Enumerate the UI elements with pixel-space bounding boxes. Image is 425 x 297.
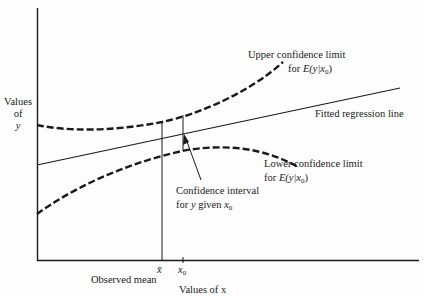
lower-for: for (264, 172, 279, 183)
y-label-line-2: of (3, 108, 33, 119)
diagram-canvas: Values of y Upper confidence limit for E… (0, 0, 425, 297)
lower-limit-label-line1: Lower confidence limit (264, 158, 363, 169)
observed-mean-label: Observed mean (91, 274, 157, 285)
lower-close: ) (305, 172, 309, 183)
lower-limit-label-line2: for E(y|x0) (264, 172, 308, 187)
upper-limit-label-line2: for E(y|x0) (288, 63, 332, 78)
x0-tick-label: x0 (178, 264, 186, 279)
fitted-line-label: Fitted regression line (315, 108, 404, 119)
y-label-line-3: y (3, 120, 33, 131)
y-axis-label: Values of y (3, 96, 33, 131)
ci-sub: 0 (229, 204, 233, 212)
lower-confidence-curve (37, 147, 298, 214)
upper-limit-label-line1: Upper confidence limit (248, 49, 345, 60)
upper-for: for (288, 63, 303, 74)
upper-confidence-curve (37, 62, 283, 130)
lower-expr: E(y|x (279, 172, 301, 183)
upper-close: ) (329, 63, 333, 74)
upper-expr: E(y|x (303, 63, 325, 74)
ci-given: given (196, 199, 225, 210)
diagram-graphics (0, 0, 425, 297)
ci-label-line2: for y given x0 (176, 199, 232, 214)
mean-tick-label: x̄ (157, 264, 162, 275)
ci-arrow-line (186, 139, 201, 180)
x0-sub: 0 (183, 269, 187, 277)
ci-label-line1: Confidence interval (176, 185, 259, 196)
fitted-regression-line (37, 88, 400, 165)
y-label-line-1: Values (3, 96, 33, 107)
x-axis-label: Values of x (179, 284, 226, 295)
ci-for: for (176, 199, 191, 210)
